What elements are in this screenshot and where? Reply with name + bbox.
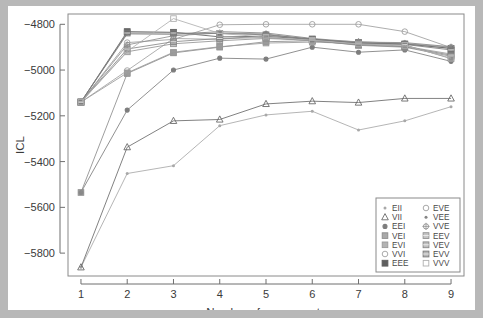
legend-label-evi: EVI (392, 241, 405, 250)
marker-eii (218, 124, 221, 127)
marker-eii (357, 129, 360, 132)
y-axis-title: ICL (14, 135, 26, 154)
legend-symbol-eei (383, 224, 387, 228)
marker-eei (125, 108, 129, 112)
x-tick-label: 2 (124, 288, 130, 300)
figure-canvas: −4800−5000−5200−5400−5600−5800ICL1234567… (8, 6, 475, 310)
x-axis-title: Number of components (206, 306, 326, 310)
x-tick-label: 3 (170, 288, 176, 300)
legend-symbol-vev (423, 242, 429, 248)
marker-eei (310, 45, 314, 49)
marker-eii (450, 105, 453, 108)
y-tick-label: −5800 (24, 247, 55, 259)
y-tick-label: −4800 (24, 18, 55, 30)
marker-evv (124, 30, 130, 36)
x-tick-label: 6 (309, 288, 315, 300)
marker-vii (124, 144, 131, 150)
legend-symbol-vee (425, 216, 428, 219)
legend-marker-vev (423, 242, 429, 248)
marker-eei (171, 68, 175, 72)
legend-symbol-eev (423, 233, 429, 239)
marker-evi (171, 49, 177, 55)
marker-eii (172, 164, 175, 167)
marker-eei (264, 57, 268, 61)
legend-marker-eei (383, 224, 387, 228)
legend-marker-eee (382, 260, 388, 266)
legend-label-vee: VEE (433, 213, 450, 222)
y-tick-label: −5600 (24, 201, 55, 213)
marker-eei (357, 50, 361, 54)
y-tick-label: −5000 (24, 64, 55, 76)
legend-symbol-vei (382, 233, 388, 239)
icl-line-chart: −4800−5000−5200−5400−5600−5800ICL1234567… (8, 6, 475, 310)
series-line-vei (81, 41, 451, 193)
x-tick-label: 4 (217, 288, 223, 300)
legend-symbol-evi (382, 242, 388, 248)
series-line-evi (81, 42, 451, 102)
legend-label-vei: VEI (392, 232, 405, 241)
legend-label-vve: VVE (433, 222, 450, 231)
marker-eii (403, 119, 406, 122)
series-evi (78, 39, 454, 105)
marker-vii (170, 117, 177, 123)
y-axis: −4800−5000−5200−5400−5600−5800 (24, 18, 65, 259)
legend-marker-evi (382, 242, 388, 248)
marker-vii (401, 95, 408, 101)
legend-label-eev: EEV (433, 232, 450, 241)
marker-vei (78, 190, 84, 196)
marker-vii (448, 95, 455, 101)
marker-eii (311, 110, 314, 113)
legend-label-vii: VII (392, 213, 402, 222)
legend-label-vev: VEV (433, 241, 450, 250)
x-tick-label: 9 (448, 288, 454, 300)
marker-vii (309, 98, 316, 104)
marker-evi (217, 44, 223, 50)
marker-eii (126, 172, 129, 175)
figure-outer-frame: −4800−5000−5200−5400−5600−5800ICL1234567… (0, 0, 483, 318)
legend-marker-vee (425, 216, 428, 219)
x-tick-label: 8 (402, 288, 408, 300)
legend-symbol-eee (382, 260, 388, 266)
legend-symbol-eii (384, 207, 387, 210)
series-line-eev (81, 38, 451, 102)
legend-marker-eii (384, 207, 387, 210)
y-tick-label: −5400 (24, 156, 55, 168)
legend-marker-vei (382, 233, 388, 239)
legend-label-eii: EII (392, 204, 402, 213)
marker-eii (265, 113, 268, 116)
legend-label-vvi: VVI (392, 250, 405, 259)
legend: EIIEVEVIIVEEEEIVVEVEIEEVEVIVEVVVIEVVEEEV… (376, 198, 460, 272)
marker-vev (171, 39, 177, 45)
legend-label-vvv: VVV (433, 259, 450, 268)
x-axis: 123456789 (78, 279, 454, 300)
legend-label-eei: EEI (392, 222, 405, 231)
x-tick-label: 7 (355, 288, 361, 300)
marker-evv (448, 47, 454, 53)
x-tick-label: 5 (263, 288, 269, 300)
legend-label-evv: EVV (433, 250, 450, 259)
legend-label-eee: EEE (392, 259, 409, 268)
legend-label-eve: EVE (433, 204, 450, 213)
marker-eei (218, 56, 222, 60)
marker-evv (309, 36, 315, 42)
marker-evv (171, 30, 177, 36)
legend-marker-eev (423, 233, 429, 239)
legend-symbol-evv (423, 251, 429, 257)
legend-marker-evv (423, 251, 429, 257)
y-tick-label: −5200 (24, 110, 55, 122)
x-tick-label: 1 (78, 288, 84, 300)
